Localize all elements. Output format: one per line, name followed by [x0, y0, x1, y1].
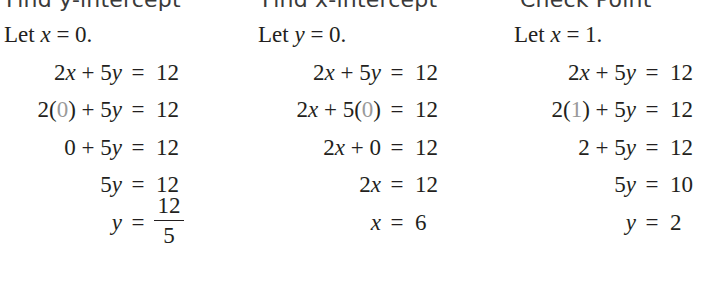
let-statement: Let x = 0.: [4, 22, 92, 48]
term: 2: [568, 60, 580, 85]
equals-sign: =: [124, 135, 152, 161]
equation-lhs-wrap: 2x: [359, 172, 381, 198]
equation-rhs: 10: [670, 172, 693, 198]
variable: y: [626, 210, 636, 235]
let-prefix: Let: [258, 22, 294, 47]
variable: x: [371, 210, 381, 235]
variable: y: [626, 172, 636, 197]
term: 2(: [551, 97, 570, 122]
term: + 0: [345, 135, 381, 160]
equation-lhs-wrap: 2(0) + 5y: [37, 97, 122, 123]
variable: x: [335, 135, 345, 160]
term: 2: [313, 60, 325, 85]
term: + 5: [590, 60, 626, 85]
equation-rhs: 12: [415, 97, 438, 123]
term: 2: [359, 172, 371, 197]
fraction-numerator: 12: [154, 192, 184, 221]
equals-sign: =: [638, 60, 666, 86]
equation-rhs: 12: [670, 135, 693, 161]
term: ): [373, 97, 381, 122]
equation-lhs-wrap: 2x + 5y: [568, 60, 636, 86]
variable: y: [112, 135, 122, 160]
let-prefix: Let: [4, 22, 40, 47]
let-value: = 1.: [561, 22, 603, 47]
term: + 5: [335, 60, 371, 85]
equals-sign: =: [124, 210, 152, 236]
substituted-value: 0: [362, 97, 374, 122]
equals-sign: =: [383, 172, 411, 198]
equals-sign: =: [383, 210, 411, 236]
equation-rhs: 12: [156, 135, 179, 161]
equation-rhs: 12: [670, 60, 693, 86]
equation-lhs-wrap: 2x + 5y: [313, 60, 381, 86]
equals-sign: =: [124, 97, 152, 123]
term: 5: [614, 172, 626, 197]
equation-lhs-wrap: 5y: [614, 172, 636, 198]
equals-sign: =: [638, 172, 666, 198]
variable: y: [626, 60, 636, 85]
term: 2 + 5: [578, 135, 625, 160]
equation-lhs-wrap: 2x + 5y: [54, 60, 122, 86]
variable: x: [580, 60, 590, 85]
term: 2: [323, 135, 335, 160]
let-value: = 0.: [305, 22, 347, 47]
equation-rhs: 12: [415, 60, 438, 86]
term: + 5: [76, 60, 112, 85]
term: 0 + 5: [64, 135, 111, 160]
equation-lhs-wrap: 2(1) + 5y: [551, 97, 636, 123]
variable: x: [371, 172, 381, 197]
fraction-denominator: 5: [154, 221, 184, 251]
equation-rhs: 12: [156, 60, 179, 86]
equation-lhs-wrap: 2x + 5(0): [296, 97, 381, 123]
variable: y: [112, 97, 122, 122]
column-header: Find x-intercept: [262, 0, 437, 12]
equation-rhs: 12: [415, 135, 438, 161]
let-statement: Let x = 1.: [514, 22, 602, 48]
term: ) + 5: [582, 97, 626, 122]
fraction: 125: [154, 192, 184, 251]
equals-sign: =: [383, 60, 411, 86]
variable: y: [112, 60, 122, 85]
equals-sign: =: [638, 97, 666, 123]
equals-sign: =: [383, 135, 411, 161]
let-value: = 0.: [51, 22, 93, 47]
equation-lhs-wrap: x: [371, 210, 381, 236]
variable: x: [66, 60, 76, 85]
equals-sign: =: [124, 60, 152, 86]
variable: y: [112, 172, 122, 197]
term: 2: [296, 97, 308, 122]
variable: y: [371, 60, 381, 85]
equation-rhs: 6: [415, 210, 427, 236]
variable: x: [308, 97, 318, 122]
let-variable: x: [40, 22, 50, 47]
variable: y: [112, 210, 122, 235]
variable: x: [325, 60, 335, 85]
equation-lhs-wrap: 2x + 0: [323, 135, 381, 161]
let-variable: y: [294, 22, 304, 47]
column-header: Find y-intercept: [6, 0, 181, 12]
equation-rhs: 12: [415, 172, 438, 198]
term: 2: [54, 60, 66, 85]
equals-sign: =: [124, 172, 152, 198]
equation-rhs: 2: [670, 210, 682, 236]
term: 5: [100, 172, 112, 197]
equation-rhs: 12: [156, 97, 179, 123]
let-variable: x: [550, 22, 560, 47]
equals-sign: =: [638, 210, 666, 236]
equation-lhs-wrap: 5y: [100, 172, 122, 198]
equation-rhs: 12: [670, 97, 693, 123]
equals-sign: =: [638, 135, 666, 161]
equation-lhs-wrap: 2 + 5y: [578, 135, 636, 161]
term: 2(: [37, 97, 56, 122]
equation-lhs-wrap: 0 + 5y: [64, 135, 122, 161]
let-statement: Let y = 0.: [258, 22, 346, 48]
term: ) + 5: [68, 97, 112, 122]
equals-sign: =: [383, 97, 411, 123]
equation-lhs-wrap: y: [626, 210, 636, 236]
equation-lhs-wrap: y: [112, 210, 122, 236]
substituted-value: 0: [57, 97, 69, 122]
column-header: Check Point: [520, 0, 652, 12]
term: + 5(: [318, 97, 362, 122]
let-prefix: Let: [514, 22, 550, 47]
substituted-value: 1: [571, 97, 583, 122]
